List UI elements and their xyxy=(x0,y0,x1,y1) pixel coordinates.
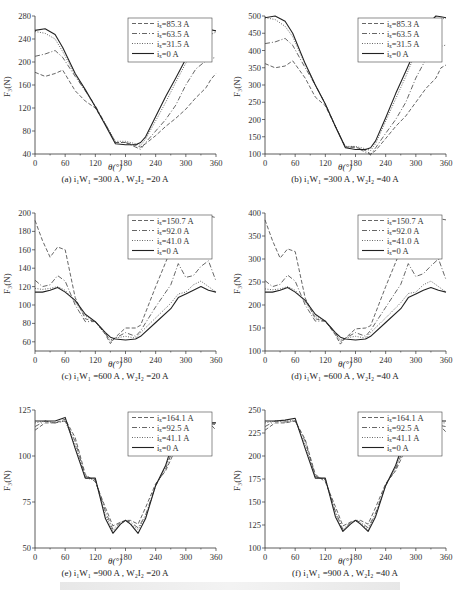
y-tick-label: 400 xyxy=(248,46,261,56)
legend-entry: iₓ=41.1 A xyxy=(387,433,420,443)
legend-entry: iₓ=0 A xyxy=(387,49,410,59)
series-line xyxy=(265,288,446,341)
series-line xyxy=(35,287,216,340)
y-tick-label: 250 xyxy=(248,277,261,287)
y-tick-label: 50 xyxy=(23,543,32,553)
legend-entry: iₓ=0 A xyxy=(157,443,180,453)
legend-entry: iₓ=0 A xyxy=(387,246,410,256)
x-axis-label: θ(°) xyxy=(230,556,460,566)
panel-caption: (c) i₁W₁ =600 A , W₂I₂ =20 A xyxy=(0,371,230,381)
series-line xyxy=(265,259,446,342)
y-tick-label: 40 xyxy=(23,149,32,159)
x-axis-label: θ(°) xyxy=(230,359,460,369)
panel-caption: (d) i₁W₁ =600 A , W₂I₂ =40 A xyxy=(230,371,460,381)
y-tick-label: 225 xyxy=(248,428,261,438)
y-tick-label: 200 xyxy=(248,115,261,125)
legend-entry: iₓ=41.0 A xyxy=(387,236,420,246)
legend-entry: iₓ=0 A xyxy=(387,443,410,453)
y-axis-label: F₃(N) xyxy=(232,470,242,491)
legend-entry: iₓ=150.7 A xyxy=(157,216,194,226)
x-axis-label: θ(°) xyxy=(230,162,460,172)
legend-entry: iₓ=63.5 A xyxy=(387,29,420,39)
panel-caption: (e) i₁W₁ =900 A , W₂I₂ =20 A xyxy=(0,568,230,578)
y-axis-label: F₃(N) xyxy=(2,470,12,491)
y-tick-label: 150 xyxy=(248,497,261,507)
panel-caption: (a) i₁W₁ =300 A , W₂I₂ =20 A xyxy=(0,174,230,184)
panel-c: 0601201802403003606080100120140160180200… xyxy=(0,197,230,393)
y-tick-label: 350 xyxy=(248,231,261,241)
legend-entry: iₓ=150.7 A xyxy=(387,216,424,226)
y-tick-label: 250 xyxy=(248,405,261,415)
y-tick-label: 350 xyxy=(248,63,261,73)
y-axis-label: F₃(N) xyxy=(232,76,242,97)
legend-entry: iₓ=164.1 A xyxy=(387,413,424,423)
y-tick-label: 100 xyxy=(248,346,261,356)
legend-entry: iₓ=92.5 A xyxy=(157,423,190,433)
panel-caption: (f) i₁W₁ =900 A , W₂I₂ =40 A xyxy=(230,568,460,578)
y-tick-label: 400 xyxy=(248,208,261,218)
y-tick-label: 450 xyxy=(248,28,261,38)
y-tick-label: 125 xyxy=(248,520,261,530)
y-axis-label: F₃(N) xyxy=(2,273,12,294)
legend-entry: iₓ=92.0 A xyxy=(157,226,190,236)
figure-caption-blurred xyxy=(60,582,400,590)
x-axis-label: θ(°) xyxy=(0,162,230,172)
y-tick-label: 300 xyxy=(248,254,261,264)
y-tick-label: 100 xyxy=(18,300,31,310)
y-tick-label: 280 xyxy=(18,11,31,21)
y-tick-label: 120 xyxy=(18,103,31,113)
x-axis-label: θ(°) xyxy=(0,359,230,369)
y-tick-label: 200 xyxy=(18,208,31,218)
legend-entry: iₓ=85.3 A xyxy=(387,19,420,29)
y-tick-label: 140 xyxy=(18,263,31,273)
y-tick-label: 120 xyxy=(18,282,31,292)
y-axis-label: F₃(N) xyxy=(232,273,242,294)
legend-entry: iₓ=31.5 A xyxy=(387,39,420,49)
series-line xyxy=(35,51,216,150)
legend-entry: iₓ=92.0 A xyxy=(387,226,420,236)
legend-entry: iₓ=0 A xyxy=(157,49,180,59)
y-tick-label: 100 xyxy=(248,543,261,553)
y-tick-label: 200 xyxy=(248,300,261,310)
y-tick-label: 500 xyxy=(248,11,261,21)
y-tick-label: 80 xyxy=(23,126,32,136)
y-tick-label: 250 xyxy=(248,97,261,107)
x-axis-label: θ(°) xyxy=(0,556,230,566)
legend-entry: iₓ=92.5 A xyxy=(387,423,420,433)
panel-a: 0601201802403003604080120160200240280F₃(… xyxy=(0,0,230,196)
y-tick-label: 75 xyxy=(23,497,32,507)
legend-entry: iₓ=41.0 A xyxy=(157,236,190,246)
y-axis-label: F₃(N) xyxy=(2,76,12,97)
legend-entry: iₓ=0 A xyxy=(157,246,180,256)
y-tick-label: 160 xyxy=(18,245,31,255)
y-tick-label: 80 xyxy=(23,318,32,328)
y-tick-label: 150 xyxy=(248,323,261,333)
series-line xyxy=(265,61,446,154)
y-tick-label: 100 xyxy=(18,451,31,461)
y-tick-label: 100 xyxy=(248,149,261,159)
y-tick-label: 160 xyxy=(18,80,31,90)
y-tick-label: 60 xyxy=(23,337,32,347)
y-tick-label: 200 xyxy=(248,451,261,461)
panel-e: 0601201802403003605075100125F₃(N)iₓ=164.… xyxy=(0,394,230,590)
panel-b: 0601201802403003601001502002503003504004… xyxy=(230,0,460,196)
legend-entry: iₓ=41.1 A xyxy=(157,433,190,443)
legend-entry: iₓ=63.5 A xyxy=(157,29,190,39)
y-tick-label: 300 xyxy=(248,80,261,90)
panel-d: 060120180240300360100150200250300350400F… xyxy=(230,197,460,393)
y-tick-label: 180 xyxy=(18,226,31,236)
y-tick-label: 240 xyxy=(18,34,31,44)
legend-entry: iₓ=31.5 A xyxy=(157,39,190,49)
series-line xyxy=(35,261,216,342)
y-tick-label: 200 xyxy=(18,57,31,67)
series-line xyxy=(35,70,216,147)
panel-caption: (b) i₁W₁ =300 A , W₂I₂ =40 A xyxy=(230,174,460,184)
panel-f: 060120180240300360100125150175200225250F… xyxy=(230,394,460,590)
y-tick-label: 150 xyxy=(248,132,261,142)
y-tick-label: 175 xyxy=(248,474,261,484)
legend-entry: iₓ=85.3 A xyxy=(157,19,190,29)
y-tick-label: 125 xyxy=(18,405,31,415)
legend-entry: iₓ=164.1 A xyxy=(157,413,194,423)
